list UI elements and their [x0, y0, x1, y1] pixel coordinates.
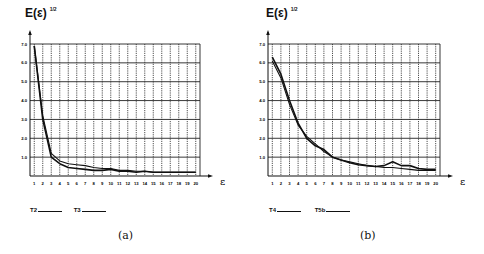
x-tick-label: 16 — [399, 181, 404, 186]
y-tick-label: 6.0 — [21, 60, 27, 65]
y-tick-label: 7.0 — [259, 42, 265, 47]
series-line-t5b — [272, 61, 435, 170]
x-tick-label: 14 — [382, 181, 387, 186]
x-tick-label: 1 — [33, 181, 36, 186]
x-axis-label: ε — [220, 176, 225, 187]
y-tick-label: 2.0 — [259, 136, 265, 141]
y-tick-label: 5.0 — [21, 79, 27, 84]
legend-line-t3 — [82, 211, 106, 212]
x-tick-label: 12 — [365, 181, 370, 186]
x-tick-label: 1 — [271, 181, 274, 186]
legend-label-t4: T4 — [269, 207, 276, 213]
legend-a: T2 T3 — [30, 207, 106, 213]
x-tick-label: 4 — [59, 181, 62, 186]
panel-b: E(ε)1/2 1.02.03.04.05.06.07.0ε1234567891… — [242, 0, 484, 254]
plot-b: 1.02.03.04.05.06.07.0ε123456789101112131… — [242, 0, 484, 200]
x-tick-label: 12 — [125, 181, 130, 186]
x-tick-label: 7 — [84, 181, 87, 186]
x-axis-label: ε — [460, 176, 465, 187]
x-tick-label: 9 — [101, 181, 104, 186]
legend-line-t4 — [277, 211, 301, 212]
y-tick-label: 1.0 — [259, 155, 265, 160]
x-tick-label: 6 — [76, 181, 79, 186]
x-tick-label: 11 — [356, 181, 361, 186]
x-tick-label: 5 — [306, 181, 309, 186]
series-line-t2 — [34, 46, 196, 172]
x-tick-label: 2 — [280, 181, 283, 186]
x-tick-label: 13 — [134, 181, 139, 186]
x-tick-label: 20 — [433, 181, 438, 186]
x-tick-label: 11 — [117, 181, 122, 186]
caption-b: (b) — [360, 229, 376, 242]
x-tick-label: 8 — [331, 181, 334, 186]
x-tick-label: 9 — [340, 181, 343, 186]
x-tick-label: 4 — [297, 181, 300, 186]
y-tick-label: 3.0 — [21, 117, 27, 122]
legend-label-t5b: T5b — [315, 207, 326, 213]
panel-a: E(ε)1/2 1.02.03.04.05.06.07.0ε1234567891… — [0, 0, 242, 254]
x-tick-label: 3 — [50, 181, 53, 186]
x-tick-label: 19 — [185, 181, 190, 186]
plot-a: 1.02.03.04.05.06.07.0ε123456789101112131… — [0, 0, 242, 200]
x-axis-arrow-icon — [448, 174, 453, 178]
x-tick-label: 8 — [93, 181, 96, 186]
x-tick-label: 18 — [176, 181, 181, 186]
y-tick-label: 2.0 — [21, 136, 27, 141]
y-tick-label: 4.0 — [259, 98, 265, 103]
legend-label-t3: T3 — [74, 207, 81, 213]
x-tick-label: 3 — [288, 181, 291, 186]
x-tick-label: 5 — [67, 181, 70, 186]
legend-label-t2: T2 — [30, 207, 37, 213]
legend-b: T4 T5b — [269, 207, 350, 213]
x-tick-label: 10 — [108, 181, 113, 186]
x-tick-label: 13 — [373, 181, 378, 186]
x-tick-label: 15 — [151, 181, 156, 186]
legend-line-t5b — [326, 211, 350, 212]
x-tick-label: 16 — [159, 181, 164, 186]
y-axis-arrow-icon — [28, 30, 32, 35]
x-tick-label: 14 — [142, 181, 147, 186]
x-tick-label: 18 — [416, 181, 421, 186]
y-tick-label: 5.0 — [259, 79, 265, 84]
y-tick-label: 4.0 — [21, 98, 27, 103]
series-line-t4 — [272, 57, 435, 169]
x-tick-label: 20 — [193, 181, 198, 186]
legend-line-t2 — [38, 211, 62, 212]
y-tick-label: 1.0 — [21, 155, 27, 160]
x-tick-label: 6 — [314, 181, 317, 186]
y-tick-label: 3.0 — [259, 117, 265, 122]
x-tick-label: 7 — [323, 181, 326, 186]
x-tick-label: 17 — [168, 181, 173, 186]
x-tick-label: 2 — [42, 181, 45, 186]
y-axis-arrow-icon — [266, 30, 270, 35]
x-tick-label: 15 — [390, 181, 395, 186]
x-tick-label: 17 — [408, 181, 413, 186]
caption-a: (a) — [118, 229, 133, 242]
y-tick-label: 6.0 — [259, 60, 265, 65]
x-tick-label: 19 — [425, 181, 430, 186]
x-axis-arrow-icon — [208, 174, 213, 178]
y-tick-label: 7.0 — [21, 42, 27, 47]
series-line-t3 — [34, 46, 196, 172]
x-tick-label: 10 — [347, 181, 352, 186]
